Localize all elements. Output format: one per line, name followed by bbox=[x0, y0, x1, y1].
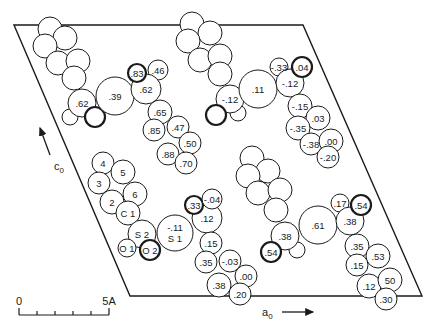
molecules-layer: .62.39.46.62.83.65.85.47.50.88.70-.12.11… bbox=[33, 12, 402, 310]
atom-label: -.35 bbox=[290, 123, 306, 134]
atom-label: .50 bbox=[183, 138, 196, 149]
atom-label: 3 bbox=[96, 178, 101, 189]
atom-label: .38 bbox=[278, 231, 291, 242]
atom-circle bbox=[198, 21, 222, 45]
atom-circle bbox=[206, 105, 226, 125]
atom-label: -.04 bbox=[204, 194, 220, 205]
atom-circle bbox=[246, 181, 270, 205]
atom-label: .00 bbox=[239, 271, 252, 282]
atom-label: .38 bbox=[212, 280, 225, 291]
atom-label: O 2 bbox=[142, 245, 157, 256]
atom-label: .12 bbox=[362, 281, 375, 292]
atom-label: -.33 bbox=[271, 62, 287, 73]
atom-label: .33 bbox=[187, 200, 200, 211]
atom-label: .20 bbox=[233, 289, 246, 300]
atom-label: .70 bbox=[179, 158, 192, 169]
atom-label: 5 bbox=[120, 167, 125, 178]
atom-label: 50 bbox=[385, 275, 396, 286]
atom-label: -.38 bbox=[303, 139, 319, 150]
axis-a0-label: a0 bbox=[262, 306, 273, 321]
atom-label: .54 bbox=[264, 247, 277, 258]
atom-label: .47 bbox=[171, 122, 184, 133]
atom-label: .61 bbox=[311, 220, 324, 231]
atom-label: C 1 bbox=[121, 208, 136, 219]
atom-label: .62 bbox=[139, 84, 152, 95]
atom-circle bbox=[62, 66, 86, 90]
bottom-right-molecule: .38.54.61.17.38.54.35.53.15.1250.30 bbox=[236, 146, 402, 310]
atom-label: S 2 bbox=[135, 229, 149, 240]
axis-c0-label: c0 bbox=[54, 160, 65, 175]
atom-label: -.12 bbox=[282, 78, 298, 89]
atom-label: O 1 bbox=[119, 243, 134, 254]
atom-label: -.11 bbox=[167, 222, 183, 233]
atom-label: .15 bbox=[350, 260, 363, 271]
atom-label: .11 bbox=[252, 84, 265, 95]
atom-label: .17 bbox=[333, 198, 346, 209]
atom-label: .65 bbox=[153, 107, 166, 118]
atom-label: -.03 bbox=[222, 256, 238, 267]
atom-label: .35 bbox=[350, 241, 363, 252]
atom-label: .46 bbox=[151, 65, 164, 76]
scale-bar: 05A bbox=[16, 295, 116, 315]
atom-label: .15 bbox=[204, 238, 217, 249]
atom-label: S 1 bbox=[168, 233, 182, 244]
atom-label: .35 bbox=[199, 257, 212, 268]
atom-label: -.12 bbox=[222, 94, 238, 105]
atom-label: .30 bbox=[379, 294, 392, 305]
atom-label: -.15 bbox=[292, 101, 308, 112]
atom-label: .04 bbox=[295, 62, 308, 73]
atom-label: .03 bbox=[311, 113, 324, 124]
atom-circle bbox=[208, 62, 232, 86]
crystal-structure-diagram: .62.39.46.62.83.65.85.47.50.88.70-.12.11… bbox=[0, 0, 432, 333]
scale-start-label: 0 bbox=[16, 295, 22, 307]
atom-label: .38 bbox=[343, 216, 356, 227]
atom-label: 6 bbox=[132, 189, 137, 200]
atom-label: .12 bbox=[200, 213, 213, 224]
atom-label: .85 bbox=[147, 125, 160, 136]
central-sulfonyl-molecule: 45326C 1S 2O 1O 2-.11S 1.12.33-.04.15.35… bbox=[88, 152, 257, 305]
atom-circle bbox=[264, 198, 288, 222]
atom-label: .39 bbox=[108, 91, 121, 102]
scale-end-label: 5A bbox=[102, 295, 116, 307]
atom-label: 4 bbox=[100, 158, 105, 169]
atom-label: .00 bbox=[324, 136, 337, 147]
atom-label: -.20 bbox=[320, 152, 336, 163]
atom-label: 2 bbox=[109, 197, 114, 208]
atom-label: .54 bbox=[354, 200, 367, 211]
atom-label: .62 bbox=[75, 98, 88, 109]
packing-diagram-svg: .62.39.46.62.83.65.85.47.50.88.70-.12.11… bbox=[0, 0, 432, 333]
axis-c0-arrow-icon bbox=[40, 128, 50, 155]
atom-label: .83 bbox=[130, 68, 143, 79]
atom-label: .88 bbox=[161, 149, 174, 160]
atom-label: .53 bbox=[371, 251, 384, 262]
